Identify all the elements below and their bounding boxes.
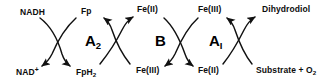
label-substrate-text: Substrate + O xyxy=(256,65,313,75)
label-fph2-text: FpH xyxy=(76,67,93,77)
cycle-label-a2-sub: 2 xyxy=(96,40,101,51)
cycle-label-b: B xyxy=(155,33,166,48)
label-fe3-bottom: Fe(III) xyxy=(136,66,159,75)
cycle-label-a2-text: A xyxy=(85,32,96,49)
label-nadh: NADH xyxy=(20,8,45,17)
label-fe2-top: Fe(II) xyxy=(137,5,158,14)
label-fe2-bottom: Fe(II) xyxy=(198,66,219,75)
label-substrate: Substrate + O2 xyxy=(256,66,316,75)
cycle-label-a1: AI xyxy=(209,33,222,48)
label-fp: Fp xyxy=(81,7,92,16)
cycle-label-a2: A2 xyxy=(85,33,101,48)
label-fe3-top: Fe(III) xyxy=(198,5,221,14)
arrow-substrate-to-fe3 xyxy=(227,18,252,64)
arrow-fph2-to-fe2 xyxy=(100,17,133,64)
arrow-nadh-to-fph2 xyxy=(40,18,70,66)
arrow-fe2-to-dihydrodiol xyxy=(223,17,255,64)
label-substrate-sub: 2 xyxy=(313,69,317,76)
cycle-label-a1-text: A xyxy=(209,32,220,49)
label-nad-plus: NAD+ xyxy=(16,68,39,77)
label-nad-plus-charge: + xyxy=(35,66,39,73)
label-nad-plus-text: NAD xyxy=(16,67,35,77)
label-fph2: FpH2 xyxy=(76,68,96,77)
arrow-fe3-to-fp xyxy=(104,18,130,64)
arrow-fe2-to-fe2b xyxy=(164,18,193,66)
label-fph2-sub: 2 xyxy=(93,71,97,78)
label-dihydrodiol: Dihydrodiol xyxy=(262,5,310,14)
